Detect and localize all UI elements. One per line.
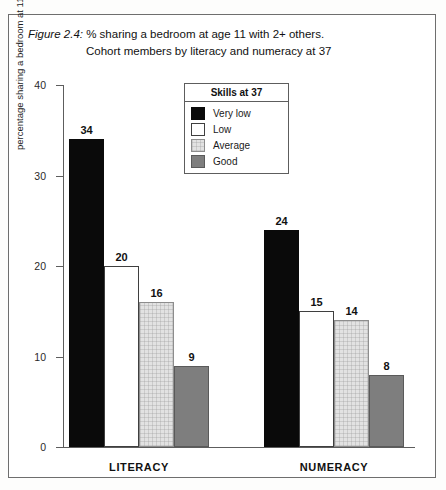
bar-value-numeracy-average: 14 <box>345 305 357 317</box>
legend-row-average: Average <box>185 137 288 153</box>
bar-numeracy-very-low: 24 <box>264 230 299 447</box>
bar-numeracy-good: 8 <box>369 375 404 448</box>
bar-value-literacy-average: 16 <box>150 287 162 299</box>
y-axis-title: percentage sharing a bedroom at 11 with … <box>14 0 25 150</box>
bar-value-numeracy-very-low: 24 <box>275 215 287 227</box>
figure-title-line1: % sharing a bedroom at age 11 with 2+ ot… <box>83 28 324 40</box>
figure-number: Figure 2.4: <box>28 28 83 40</box>
figure-title: Figure 2.4: % sharing a bedroom at age 1… <box>28 26 388 60</box>
bar-numeracy-average: 14 <box>334 320 369 447</box>
figure-title-line2: Cohort members by literacy and numeracy … <box>28 43 388 60</box>
legend-row-low: Low <box>185 121 288 137</box>
legend-label-very-low: Very low <box>213 108 251 119</box>
y-tick-0: 0 <box>56 447 63 448</box>
bar-value-literacy-good: 9 <box>188 351 194 363</box>
y-tick-10: 10 <box>56 357 63 358</box>
y-tick-30: 30 <box>56 176 63 177</box>
y-axis-line <box>63 85 64 448</box>
bar-literacy-very-low: 34 <box>69 139 104 447</box>
legend-swatch-very-low-icon <box>191 107 205 120</box>
legend-label-good: Good <box>213 156 237 167</box>
group-label-literacy: LITERACY <box>109 461 169 473</box>
bar-literacy-low: 20 <box>104 266 139 447</box>
legend-swatch-low-icon <box>191 123 205 136</box>
y-tick-label-0: 0 <box>40 441 46 453</box>
y-tick-label-10: 10 <box>34 351 46 363</box>
bar-value-literacy-low: 20 <box>115 251 127 263</box>
y-tick-label-40: 40 <box>34 79 46 91</box>
group-label-numeracy: NUMERACY <box>300 461 368 473</box>
legend-swatch-good-icon <box>191 155 205 168</box>
y-tick-label-30: 30 <box>34 170 46 182</box>
legend-row-good: Good <box>185 153 288 169</box>
legend-items: Very low Low Average Good <box>185 102 288 173</box>
legend: Skills at 37 Very low Low Average Good <box>184 83 289 174</box>
legend-label-average: Average <box>213 140 250 151</box>
y-tick-label-20: 20 <box>34 260 46 272</box>
bar-literacy-average: 16 <box>139 302 174 447</box>
x-axis-line <box>63 447 415 448</box>
legend-label-low: Low <box>213 124 231 135</box>
bar-value-numeracy-good: 8 <box>383 360 389 372</box>
y-tick-20: 20 <box>56 266 63 267</box>
bar-value-numeracy-low: 15 <box>310 296 322 308</box>
legend-swatch-average-icon <box>191 139 205 152</box>
figure-container: Figure 2.4: % sharing a bedroom at age 1… <box>0 0 446 490</box>
y-tick-40: 40 <box>56 85 63 86</box>
legend-title: Skills at 37 <box>185 84 288 102</box>
legend-row-very-low: Very low <box>185 105 288 121</box>
bar-literacy-good: 9 <box>174 366 209 448</box>
bar-value-literacy-very-low: 34 <box>80 124 92 136</box>
bar-numeracy-low: 15 <box>299 311 334 447</box>
